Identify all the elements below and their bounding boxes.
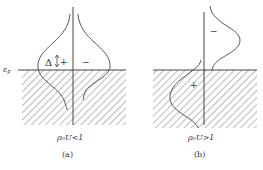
dos-diagram: Δ + − εF ρ₀U<1 (a) − + ρ₀U>1 (b) bbox=[0, 0, 263, 170]
caption-a: (a) bbox=[62, 150, 73, 159]
gap-label-a: Δ bbox=[45, 57, 52, 68]
panel-b: − + ρ₀U>1 (b) bbox=[153, 6, 257, 159]
condition-label-b: ρ₀U>1 bbox=[187, 133, 214, 142]
minus-label-a: − bbox=[82, 57, 90, 67]
condition-label-a: ρ₀U<1 bbox=[56, 133, 83, 142]
panel-a: Δ + − εF ρ₀U<1 (a) bbox=[3, 7, 126, 159]
plus-label-b: + bbox=[190, 80, 198, 90]
filled-states-a bbox=[22, 70, 126, 125]
spin-down-dos-b bbox=[210, 6, 240, 70]
filled-states-b bbox=[153, 70, 257, 128]
caption-b: (b) bbox=[194, 150, 205, 159]
minus-label-b: − bbox=[210, 26, 218, 36]
plus-label-a: + bbox=[60, 57, 68, 67]
fermi-level-label: εF bbox=[3, 65, 11, 75]
